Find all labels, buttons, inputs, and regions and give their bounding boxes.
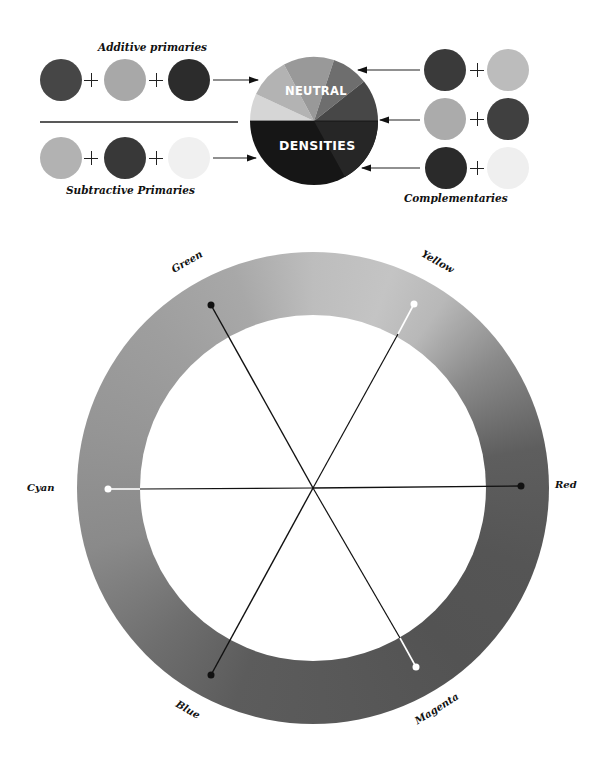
wheel-label-cyan: Cyan: [27, 482, 55, 493]
magenta-dot-icon: [413, 664, 420, 671]
cyan-dot-icon: [105, 486, 112, 493]
blue-dot-icon: [208, 672, 215, 679]
green-dot-icon: [208, 302, 215, 309]
pie-densities-label: DENSITIES: [279, 138, 355, 153]
yellow-dot-icon: [411, 301, 418, 308]
pie-neutral-label: NEUTRAL: [285, 84, 347, 98]
wheel-label-red: Red: [555, 479, 577, 490]
color-theory-diagram: Additive primaries Subtractive Primaries…: [0, 0, 612, 759]
diagram-graphics: [0, 0, 612, 759]
neutral-densities-pie: [250, 57, 378, 185]
red-dot-icon: [518, 483, 525, 490]
